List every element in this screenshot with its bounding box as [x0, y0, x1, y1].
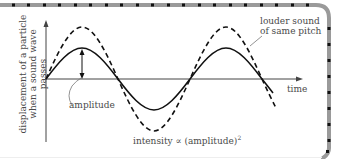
y-axis-label: displacement of a particle when a sound …	[18, 14, 48, 134]
y-axis-label-line1: displacement of a particle	[18, 14, 28, 134]
x-axis-label: time	[287, 84, 307, 94]
amplitude-arrow	[80, 49, 85, 79]
amplitude-label: amplitude	[69, 100, 115, 110]
intensity-exponent: 2	[237, 134, 241, 141]
intensity-label: intensity ∝ (amplitude)2	[133, 136, 241, 146]
y-axis-label-line2: when a sound wave passes	[28, 14, 48, 134]
louder-label-line2: of same pitch	[260, 26, 321, 36]
louder-label-line1: louder sound	[260, 16, 321, 26]
louder-sound-label: louder sound of same pitch	[260, 16, 321, 36]
louder-leader-line	[250, 36, 262, 46]
x-axis-arrowhead	[296, 77, 303, 82]
intensity-formula: intensity ∝ (amplitude)	[133, 136, 237, 146]
